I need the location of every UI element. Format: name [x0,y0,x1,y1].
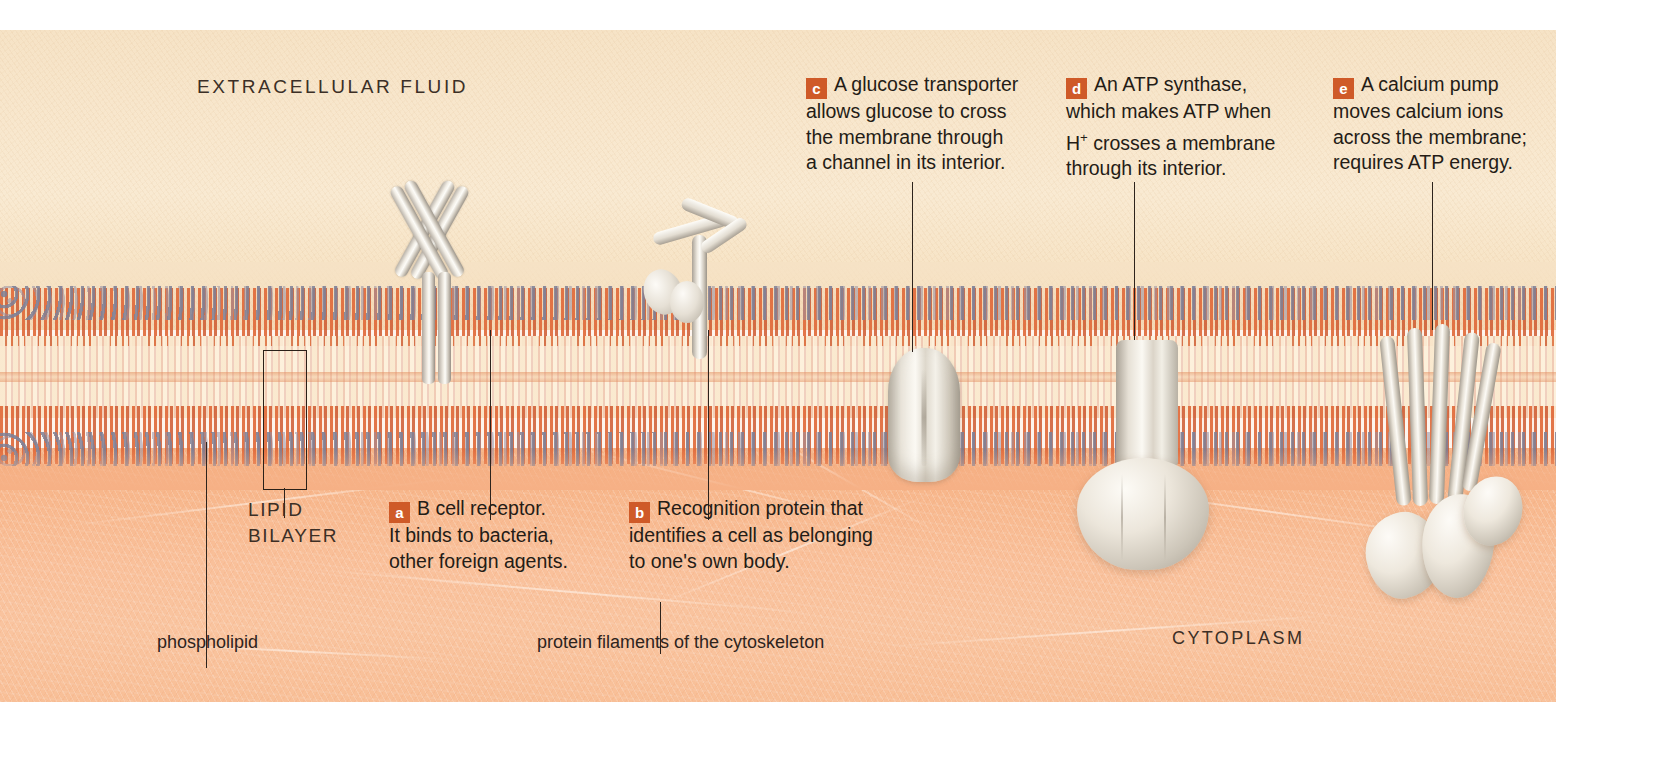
callout-c-text1: A glucose transporter [834,73,1018,95]
callout-a-line3: other foreign agents. [389,549,599,575]
lipid-bilayer-label-line2: BILAYER [248,523,338,549]
lipid-bilayer [0,288,1556,464]
callout-b-text1: Recognition protein that [657,497,863,519]
antibody-stem-right [438,272,451,384]
callout-badge-b: b [629,502,650,523]
atp-synthase-lobe-division [1121,474,1123,561]
callout-c-line3: the membrane through [806,125,1042,151]
callout-d-line3: H+ crosses a membrane [1066,125,1304,156]
atp-synthase-stalk [1116,340,1178,466]
callout-d-ion-symbol: H [1066,131,1080,153]
outer-head-groups [0,286,1556,320]
calcium-pump-helix [1379,336,1412,507]
leader-line-recognition [708,330,709,520]
callout-a-text1: B cell receptor. [417,497,546,519]
callout-d-line4: through its interior. [1066,156,1304,182]
callout-badge-c: c [806,78,827,99]
leader-line-atp-synthase [1134,182,1135,340]
leader-line-calcium-pump [1432,182,1433,330]
callout-b-line3: to one's own body. [629,549,909,575]
membrane-diagram-figure: EXTRACELLULAR FLUID CYTOPLASM LIPID BILA… [0,0,1664,776]
glycoprotein-foot [670,281,704,323]
atp-synthase-head [1077,458,1209,570]
callout-c-line1: cA glucose transporter [806,72,1042,99]
callout-b-line1: bRecognition protein that [629,496,909,523]
callout-e-line3: across the membrane; [1333,125,1555,151]
glucose-transporter-channel [888,348,960,482]
callout-d-line3-rest: crosses a membrane [1088,131,1276,153]
callout-badge-a: a [389,502,410,523]
cytoplasm-label: CYTOPLASM [1172,628,1304,649]
bilayer-midline [0,372,1556,382]
callout-a-line1: aB cell receptor. [389,496,599,523]
callout-d-text1: An ATP synthase, [1094,73,1247,95]
callout-b-line2: identifies a cell as belonging [629,523,909,549]
leader-line-b-cell [490,330,491,520]
callout-d-ion-charge: + [1080,130,1088,145]
callout-e-text1: A calcium pump [1361,73,1499,95]
callout-e-line4: requires ATP energy. [1333,150,1555,176]
callout-c: cA glucose transporter allows glucose to… [806,72,1042,176]
leader-line-glucose [912,182,913,352]
callout-badge-d: d [1066,78,1087,99]
callout-e: eA calcium pump moves calcium ions acros… [1333,72,1555,176]
calcium-pump [1370,318,1540,608]
atp-synthase-lobe-division [1164,474,1166,561]
callout-a: aB cell receptor. It binds to bacteria, … [389,496,599,574]
antibody-stem-left [422,272,435,384]
glucose-channel-pore [922,369,927,465]
lipid-bilayer-label-line1: LIPID [248,497,338,523]
callout-e-line2: moves calcium ions [1333,99,1555,125]
lipid-bilayer-marker-box [263,350,307,490]
phospholipid-label: phospholipid [157,632,258,653]
calcium-pump-helix [1407,328,1428,506]
callout-c-line4: a channel in its interior. [806,150,1042,176]
callout-d-line2: which makes ATP when [1066,99,1304,125]
callout-b: bRecognition protein that identifies a c… [629,496,909,574]
extracellular-fluid-label: EXTRACELLULAR FLUID [197,76,468,98]
callout-c-line2: allows glucose to cross [806,99,1042,125]
callout-badge-e: e [1333,78,1354,99]
callout-d: dAn ATP synthase, which makes ATP when H… [1066,72,1304,181]
b-cell-receptor-antibody [370,160,510,340]
callout-a-line2: It binds to bacteria, [389,523,599,549]
callout-d-line1: dAn ATP synthase, [1066,72,1304,99]
membrane-bottom-fade [0,450,1556,490]
lipid-bilayer-label: LIPID BILAYER [248,497,338,549]
cytoskeleton-label: protein filaments of the cytoskeleton [537,632,824,653]
recognition-glycoprotein [640,195,760,355]
membrane-scene [0,30,1556,702]
callout-e-line1: eA calcium pump [1333,72,1555,99]
calcium-pump-helix [1429,324,1450,504]
